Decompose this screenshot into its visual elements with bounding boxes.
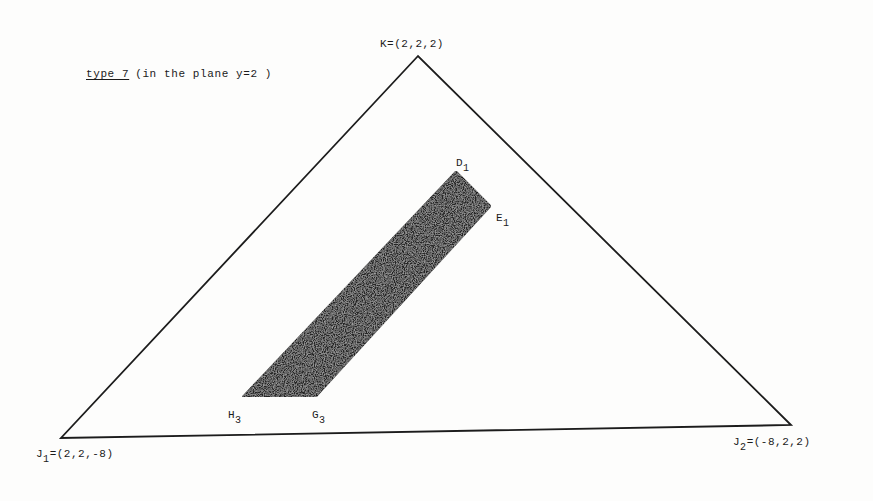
vertex-label-k: K=(2,2,2) [380,38,444,50]
vertex-label-j1: J1=(2,2,-8) [36,448,114,460]
point-label-d1: D1 [456,157,470,169]
type-label: type 7 [86,68,129,80]
point-label-g3: G3 [312,409,326,421]
point-label-h3: H3 [228,409,242,421]
figure-caption: type 7(in the plane y=2 ) [86,68,272,80]
point-label-e1: E1 [496,212,510,224]
point-subscript: 1 [463,163,470,174]
vertex-coords: =(2,2,-8) [50,448,114,460]
point-subscript: 1 [503,218,510,229]
vertex-coords: =(-8,2,2) [747,436,811,448]
vertex-coords: =(2,2,2) [387,38,444,50]
point-subscript: 3 [319,415,326,426]
vertex-label-j2: J2=(-8,2,2) [733,436,811,448]
plane-description: (in the plane y=2 ) [135,68,272,80]
diagram-canvas: type 7(in the plane y=2 ) K=(2,2,2) J1=(… [0,0,873,501]
point-subscript: 3 [235,415,242,426]
